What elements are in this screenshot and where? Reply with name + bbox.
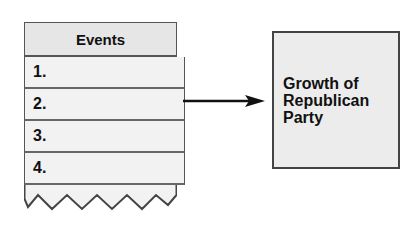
result-line-3: Party: [283, 109, 369, 126]
event-row-label: 3.: [33, 127, 46, 145]
result-box: Growth of Republican Party: [272, 31, 400, 169]
torn-edge-icon: [24, 185, 177, 215]
events-header: Events: [24, 22, 177, 57]
result-line-1: Growth of: [283, 75, 369, 92]
result-line-2: Republican: [283, 92, 369, 109]
arrow-right-icon: [183, 93, 267, 109]
event-row-label: 2.: [33, 95, 46, 113]
event-row-label: 1.: [33, 63, 46, 81]
event-row-3[interactable]: 3.: [24, 121, 185, 153]
event-row-2[interactable]: 2.: [24, 89, 185, 121]
event-row-1[interactable]: 1.: [24, 57, 185, 89]
event-row-4[interactable]: 4.: [24, 153, 185, 185]
event-row-label: 4.: [33, 159, 46, 177]
